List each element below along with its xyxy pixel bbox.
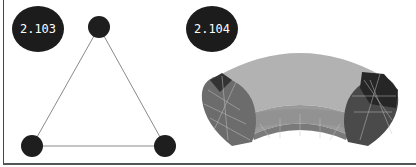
figure-number-text: 2.104 — [194, 22, 230, 36]
figure-2-104-tube-mesh — [202, 53, 398, 146]
figure-label-2-104: 2.104 — [186, 6, 238, 52]
figure-number-text: 2.103 — [20, 22, 56, 36]
figure-label-2-103: 2.103 — [12, 6, 64, 52]
node-top — [88, 16, 110, 38]
node-bottom-right — [154, 135, 176, 157]
edge-top-right — [99, 27, 165, 146]
node-bottom-left — [21, 135, 43, 157]
